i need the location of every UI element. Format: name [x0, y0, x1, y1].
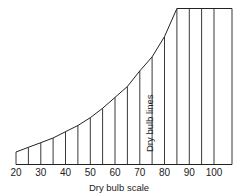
tick-label-90: 90	[184, 167, 196, 178]
tick-label-50: 50	[85, 167, 97, 178]
vertical-label: Dry bulb lines	[144, 94, 155, 152]
tick-label-20: 20	[10, 167, 22, 178]
dry-bulb-lines	[16, 9, 232, 165]
tick-label-100: 100	[206, 167, 223, 178]
tick-label-40: 40	[60, 167, 72, 178]
tick-labels: 2030405060708090100	[10, 167, 222, 178]
tick-label-60: 60	[109, 167, 121, 178]
axis-title: Dry bulb scale	[89, 182, 149, 193]
tick-label-80: 80	[159, 167, 171, 178]
psychrometric-dry-bulb-diagram: 2030405060708090100 Dry bulb lines Dry b…	[0, 0, 238, 196]
tick-label-30: 30	[35, 167, 47, 178]
tick-label-70: 70	[134, 167, 146, 178]
